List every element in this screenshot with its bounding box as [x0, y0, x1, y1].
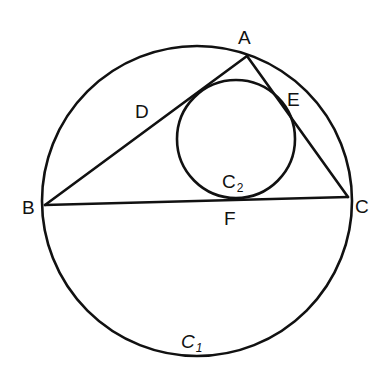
label-c1-sub: 1 [196, 341, 203, 355]
label-c1-main: C [181, 331, 195, 352]
geometry-diagram: A B C D E F C2 C1 [0, 0, 387, 375]
label-b: B [22, 197, 35, 218]
segment-bc [45, 197, 348, 205]
label-e: E [287, 89, 300, 110]
segment-ab [45, 56, 247, 205]
label-c: C [355, 196, 369, 217]
label-a: A [238, 27, 251, 48]
label-c2-sub: 2 [237, 181, 244, 195]
label-d: D [135, 101, 149, 122]
label-c2: C2 [222, 171, 244, 195]
label-c1: C1 [181, 331, 202, 355]
label-f: F [224, 208, 236, 229]
label-c2-main: C [222, 171, 236, 192]
